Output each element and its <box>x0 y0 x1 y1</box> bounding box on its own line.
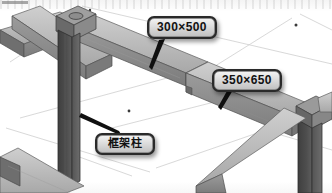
callout-beam-dimension-350x650[interactable]: 350×650 <box>212 69 282 92</box>
callout-label: 300×500 <box>149 18 215 37</box>
callout-beam-dimension-300x500[interactable]: 300×500 <box>147 16 217 39</box>
beam-right-cross-upper <box>318 92 332 112</box>
callout-frame-column[interactable]: 框架柱 <box>95 133 155 155</box>
beam-right-cross-lower <box>196 108 306 193</box>
callout-label: 框架柱 <box>97 135 153 153</box>
callout-label: 350×650 <box>214 71 280 90</box>
figure-canvas: 300×500 350×650 框架柱 <box>0 0 332 193</box>
frame-column-right <box>298 120 322 193</box>
frame-column-left <box>58 30 80 185</box>
